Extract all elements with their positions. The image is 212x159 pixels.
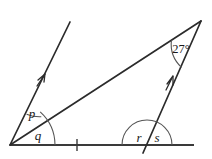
angle-q-label: q bbox=[35, 128, 42, 143]
angle-s-label: s bbox=[154, 130, 159, 145]
left-parallel-arrow-icon bbox=[37, 74, 45, 86]
left-parallel-ray bbox=[10, 22, 70, 145]
angle-p-label: p bbox=[28, 106, 36, 121]
angle-rs-arc bbox=[122, 120, 172, 145]
geometry-diagram-canvas: p q r s 27° bbox=[0, 0, 212, 159]
angle-r-label: r bbox=[136, 130, 142, 145]
angle-apex-label: 27° bbox=[172, 42, 190, 56]
geometry-figure: p q r s 27° bbox=[0, 0, 212, 159]
